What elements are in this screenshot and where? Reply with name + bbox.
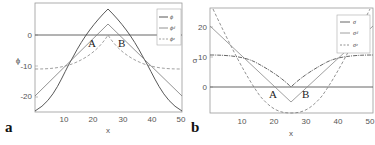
panel-b-point-a: A — [269, 88, 277, 100]
panel-a-legend-item: ϕᵉ — [170, 36, 175, 42]
panel-a-xtick: 50 — [177, 115, 186, 124]
panel-b-xtick: 50 — [366, 117, 375, 126]
panel-b-xtick: 20 — [270, 117, 279, 126]
panel-b-legend-item: σᵉ — [353, 42, 358, 48]
panel-a-xtick: 20 — [89, 115, 98, 124]
panel-a-ylabel: ϕ — [16, 56, 21, 65]
panel-a-xtick: 10 — [60, 115, 69, 124]
panel-b: 20 10 0 10 20 30 40 50 x σ A B σ σᵈ σᵉ b — [191, 8, 375, 138]
panel-a-legend-item: ϕ — [170, 14, 173, 20]
panel-a: 0 -10 -20 10 20 30 40 50 x ϕ A B ϕ ϕᵈ ϕᵉ — [5, 3, 186, 135]
panel-a-xtick: 40 — [148, 115, 157, 124]
panel-b-ytick: 0 — [203, 83, 208, 92]
panel-a-xtick: 30 — [119, 115, 128, 124]
panel-b-xlabel: x — [289, 129, 293, 138]
panel-a-point-a: A — [88, 37, 96, 49]
panel-a-ytick: -10 — [20, 62, 32, 71]
figure: 0 -10 -20 10 20 30 40 50 x ϕ A B ϕ ϕᵈ ϕᵉ — [0, 0, 375, 145]
panel-a-ytick: 0 — [28, 31, 33, 40]
panel-b-legend: σ σᵈ σᵉ — [337, 15, 370, 53]
panel-b-letter: b — [191, 119, 199, 135]
panel-a-ytick: -20 — [20, 92, 32, 101]
panel-b-xtick: 10 — [238, 117, 247, 126]
panel-b-ytick: 20 — [198, 23, 207, 32]
panel-a-legend: ϕ ϕᵈ ϕᵉ — [157, 9, 181, 45]
panel-b-ylabel: σ — [193, 56, 198, 65]
panel-b-xtick: 40 — [334, 117, 343, 126]
panel-b-point-b: B — [302, 88, 309, 100]
panel-b-ytick: 10 — [198, 53, 207, 62]
panel-b-series-sigma — [210, 55, 373, 87]
panel-a-xlabel: x — [106, 126, 110, 135]
panel-b-xtick: 30 — [302, 117, 311, 126]
panel-a-point-b: B — [118, 37, 125, 49]
panel-a-letter: a — [5, 119, 13, 135]
